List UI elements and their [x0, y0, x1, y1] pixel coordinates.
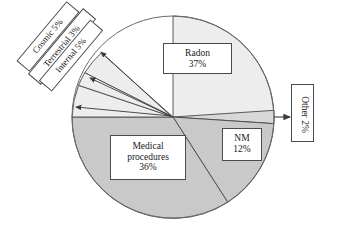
slice-label-other: Other 2%: [291, 84, 314, 142]
slice-label-nm-value: 12%: [223, 144, 261, 155]
slice-label-nm-name: NM: [223, 133, 261, 144]
slice-label-nm: NM 12%: [222, 128, 262, 161]
slice-label-medical-name1: Medical: [111, 141, 185, 152]
slice-label-other-text: Other 2%: [292, 85, 315, 143]
pie-chart-figure: Radon 37% Medical procedures 36% NM 12% …: [0, 0, 338, 226]
slice-label-medical-name2: procedures: [111, 152, 185, 163]
slice-label-medical-value: 36%: [111, 162, 185, 173]
slice-label-radon-value: 37%: [164, 59, 231, 70]
slice-label-radon: Radon 37%: [163, 43, 232, 74]
slice-label-radon-name: Radon: [164, 48, 231, 59]
slice-label-medical: Medical procedures 36%: [110, 135, 186, 180]
